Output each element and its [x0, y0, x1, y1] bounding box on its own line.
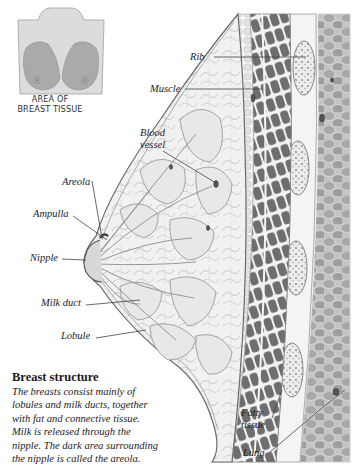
- label-blood-vessel-line1: Blood: [140, 127, 165, 139]
- label-muscle: Muscle: [150, 83, 180, 95]
- label-fatty-tissue-line2: tissue: [241, 419, 265, 431]
- label-lung: Lung: [243, 447, 265, 459]
- label-lobule: Lobule: [61, 330, 90, 342]
- inset-caption: AREA OF BREAST TISSUE: [14, 94, 86, 114]
- label-rib: Rib: [190, 51, 205, 63]
- caption-line: the nipple is called the areola.: [12, 452, 212, 465]
- torso-inset-diagram: [6, 4, 116, 99]
- caption-line: lobules and milk ducts, together: [12, 398, 212, 411]
- caption-body: The breasts consist mainly of lobules an…: [12, 385, 212, 465]
- label-fatty-tissue: Fatty tissue: [241, 407, 265, 431]
- label-milk-duct: Milk duct: [41, 297, 81, 309]
- inset-caption-line1: AREA OF: [14, 94, 86, 104]
- label-areola: Areola: [62, 176, 90, 188]
- caption-line: nipple. The dark area surrounding: [12, 439, 212, 452]
- label-blood-vessel-line2: vessel: [140, 139, 165, 151]
- label-ampulla: Ampulla: [33, 208, 69, 220]
- caption-title: Breast structure: [12, 370, 99, 385]
- label-nipple: Nipple: [30, 252, 58, 264]
- label-blood-vessel: Blood vessel: [140, 127, 165, 151]
- caption-line: Milk is released through the: [12, 425, 212, 438]
- inset-caption-line2: BREAST TISSUE: [14, 104, 86, 114]
- caption-line: The breasts consist mainly of: [12, 385, 212, 398]
- label-fatty-tissue-line1: Fatty: [241, 407, 265, 419]
- breast-anatomy-diagram: AREA OF BREAST TISSUE Rib Muscle Blood v…: [0, 0, 358, 470]
- caption-line: with fat and connective tissue.: [12, 412, 212, 425]
